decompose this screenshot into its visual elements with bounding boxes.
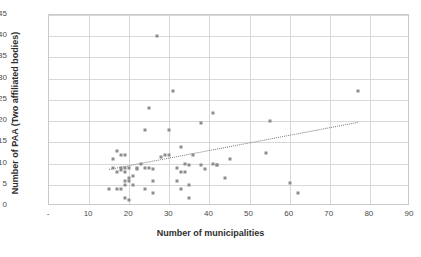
data-point	[128, 198, 131, 201]
data-point	[136, 168, 139, 171]
data-point	[172, 90, 175, 93]
data-point	[212, 162, 215, 165]
x-axis-tick-label: 10	[84, 210, 93, 218]
data-point	[124, 179, 127, 182]
y-axis-tick-label: 25	[0, 95, 7, 103]
data-point	[144, 188, 147, 191]
data-point	[184, 171, 187, 174]
data-point	[152, 179, 155, 182]
data-point	[268, 120, 271, 123]
x-axis-tick-label: 90	[405, 210, 414, 218]
y-axis-tick-label: 0	[0, 201, 7, 209]
gridline-horizontal	[49, 185, 408, 186]
gridline-vertical	[129, 15, 130, 204]
data-point	[124, 171, 127, 174]
data-point	[180, 171, 183, 174]
x-axis-tick-label: 40	[204, 210, 213, 218]
data-point	[152, 192, 155, 195]
data-point	[120, 188, 123, 191]
data-point	[132, 175, 135, 178]
data-point	[188, 163, 191, 166]
y-axis-tick-label: 10	[0, 159, 7, 167]
data-point	[188, 196, 191, 199]
data-point	[116, 171, 119, 174]
data-point	[108, 188, 111, 191]
data-point	[204, 168, 207, 171]
gridline-horizontal	[49, 36, 408, 37]
gridline-vertical	[169, 15, 170, 204]
data-point	[144, 128, 147, 131]
gridline-vertical	[250, 15, 251, 204]
data-point	[264, 151, 267, 154]
data-point	[128, 177, 131, 180]
gridline-horizontal	[49, 57, 408, 58]
data-point	[192, 154, 195, 157]
gridline-horizontal	[49, 100, 408, 101]
data-point	[120, 154, 123, 157]
gridline-horizontal	[49, 79, 408, 80]
data-point	[156, 35, 159, 38]
gridline-vertical	[209, 15, 210, 204]
data-point	[148, 107, 151, 110]
data-point	[356, 90, 359, 93]
data-point	[132, 183, 135, 186]
x-axis-tick-label: 60	[284, 210, 293, 218]
y-axis-title: Number of PAA (Two affiliated bodies)	[10, 13, 20, 213]
data-point	[144, 166, 147, 169]
y-axis-tick-label: 35	[0, 52, 7, 60]
data-point	[128, 166, 131, 169]
data-point	[176, 179, 179, 182]
data-point	[152, 168, 155, 171]
data-point	[124, 166, 127, 169]
data-point	[168, 154, 171, 157]
gridline-vertical	[290, 15, 291, 204]
data-point	[216, 163, 219, 166]
gridline-vertical	[330, 15, 331, 204]
gridline-vertical	[89, 15, 90, 204]
x-axis-tick-label: 80	[364, 210, 373, 218]
y-axis-tick-label: 40	[0, 31, 7, 39]
data-point	[296, 192, 299, 195]
data-point	[160, 156, 163, 159]
data-point	[164, 154, 167, 157]
gridline-horizontal	[49, 164, 408, 165]
scatter-chart: Number of PAA (Two affiliated bodies) Nu…	[0, 0, 421, 257]
data-point	[188, 183, 191, 186]
data-point	[200, 163, 203, 166]
gridline-vertical	[370, 15, 371, 204]
x-axis-tick-label: -	[47, 210, 50, 218]
data-point	[180, 188, 183, 191]
data-point	[200, 122, 203, 125]
data-point	[116, 149, 119, 152]
data-point	[112, 166, 115, 169]
data-point	[116, 188, 119, 191]
data-point	[120, 168, 123, 171]
data-point	[168, 128, 171, 131]
data-point	[124, 154, 127, 157]
data-point	[148, 166, 151, 169]
data-point	[184, 162, 187, 165]
data-point	[140, 162, 143, 165]
data-point	[212, 111, 215, 114]
data-point	[288, 181, 291, 184]
data-point	[180, 145, 183, 148]
x-axis-tick-label: 70	[324, 210, 333, 218]
x-axis-tick-label: 30	[164, 210, 173, 218]
y-axis-tick-label: 45	[0, 10, 7, 18]
y-axis-tick-label: 30	[0, 74, 7, 82]
data-point	[124, 183, 127, 186]
x-axis-tick-label: 20	[124, 210, 133, 218]
data-point	[176, 166, 179, 169]
gridline-horizontal	[49, 142, 408, 143]
y-axis-tick-label: 5	[0, 180, 7, 188]
data-point	[124, 196, 127, 199]
data-point	[224, 176, 227, 179]
y-axis-tick-label: 15	[0, 137, 7, 145]
gridline-horizontal	[49, 15, 408, 16]
data-point	[112, 158, 115, 161]
x-axis-tick-label: 50	[244, 210, 253, 218]
x-axis-title: Number of municipalities	[0, 228, 421, 238]
y-axis-tick-label: 20	[0, 116, 7, 124]
data-point	[228, 158, 231, 161]
plot-area	[48, 14, 409, 205]
